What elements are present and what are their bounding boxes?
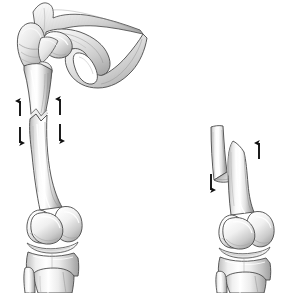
femur-fracture-figure: Femoral shaft fracture with displacement xyxy=(0,0,290,293)
illustration-canvas xyxy=(0,0,290,293)
right-fibula xyxy=(216,271,227,293)
tibia xyxy=(33,268,74,293)
fibula xyxy=(24,267,35,293)
right-tibia xyxy=(225,272,266,293)
